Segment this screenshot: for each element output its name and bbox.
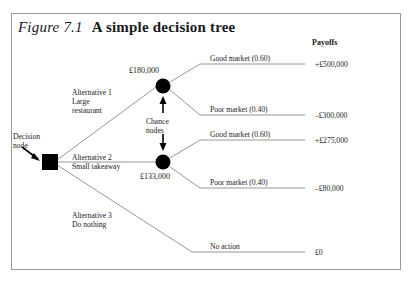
branch-label-poor-market-1: Poor market (0.40) (210, 105, 268, 114)
decision-node-label-line2: node (13, 141, 28, 150)
payoff-poor-market-2: –£80,000 (315, 184, 343, 193)
alternative-2-label-line2: Small takeaway (72, 162, 120, 171)
decision-node-label-line1: Decision (13, 132, 40, 141)
alternative-2-label-line1: Alternative 2 (72, 153, 112, 162)
chance-node-down-arrow (160, 134, 167, 151)
chance-node-bottom (156, 155, 171, 170)
decision-node (42, 154, 58, 170)
chance-node-up-arrow (160, 96, 167, 113)
edge-alternative-3 (57, 165, 192, 252)
alternative-3-label-line1: Alternative 3 (72, 211, 112, 220)
bottom-chance-node-value: £133,000 (140, 172, 170, 181)
payoff-good-market-2: +£275,000 (315, 136, 348, 145)
top-chance-node-value: £180,000 (129, 66, 159, 75)
alternative-1-label-line3: restaurant (72, 106, 102, 115)
alternative-1-label-line2: Large (72, 97, 90, 106)
payoffs-header: Payoffs (312, 38, 337, 47)
branch-label-poor-market-2: Poor market (0.40) (210, 178, 268, 187)
branch-label-good-market-1: Good market (0.60) (210, 54, 270, 63)
payoff-poor-market-1: –£300,000 (315, 111, 347, 120)
edge-good-market-1 (170, 64, 305, 82)
chance-nodes-label-line2: nodes (146, 126, 164, 135)
decision-tree-graphic (0, 0, 414, 291)
payoff-no-action: £0 (315, 248, 323, 257)
chance-node-top (156, 79, 171, 94)
payoff-good-market-1: +£500,000 (315, 60, 348, 69)
branch-label-no-action: No action (210, 242, 240, 251)
branch-label-good-market-2: Good market (0.60) (210, 130, 270, 139)
edge-good-market-2 (170, 140, 305, 158)
alternative-3-label-line2: Do nothing (72, 220, 106, 229)
chance-nodes-label-line1: Chance (146, 117, 169, 126)
alternative-1-label-line1: Alternative 1 (72, 88, 112, 97)
